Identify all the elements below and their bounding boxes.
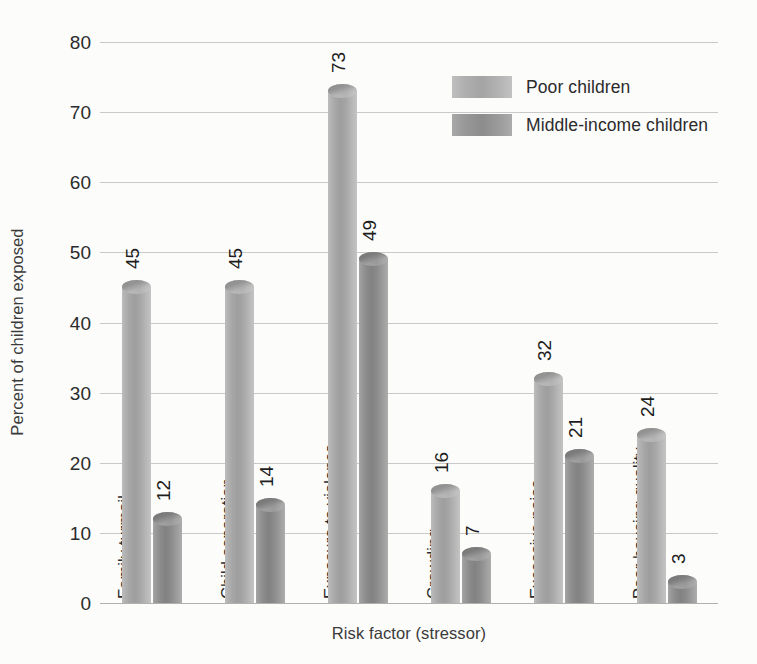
- bar-cap-shading: [668, 575, 697, 589]
- y-tick-label: 40: [30, 313, 100, 332]
- legend: Poor childrenMiddle-income children: [452, 72, 732, 148]
- legend-label: Middle-income children: [526, 115, 708, 136]
- bar: [462, 547, 491, 603]
- bar-value-label: 3: [669, 553, 688, 564]
- bar-body: [565, 456, 594, 603]
- bar: [534, 372, 563, 603]
- gridline: [100, 182, 718, 183]
- y-axis-tick-labels: 01020304050607080: [30, 0, 100, 664]
- bar-value-label: 73: [329, 52, 348, 73]
- y-tick-label: 30: [30, 383, 100, 402]
- axis-baseline: [100, 603, 718, 604]
- light-gray-swatch: [452, 76, 512, 98]
- y-tick-label: 20: [30, 453, 100, 472]
- dark-gray-swatch: [452, 114, 512, 136]
- bar: [153, 512, 182, 603]
- legend-item: Middle-income children: [452, 110, 732, 140]
- gridline: [100, 533, 718, 534]
- bar-value-label: 45: [123, 248, 142, 269]
- bar-body: [256, 505, 285, 603]
- bar: [637, 428, 666, 603]
- bar-body: [534, 379, 563, 603]
- bar: [668, 575, 697, 603]
- y-tick-label: 50: [30, 243, 100, 262]
- bar-cap-shading: [462, 547, 491, 561]
- bar-value-label: 7: [463, 525, 482, 536]
- bar-cap-shading: [431, 484, 460, 498]
- bar: [225, 280, 254, 603]
- bar-body: [122, 287, 151, 603]
- legend-label: Poor children: [526, 77, 630, 98]
- bar-body: [328, 91, 357, 603]
- bar-value-label: 12: [154, 480, 173, 501]
- bar-body: [431, 491, 460, 603]
- gridline: [100, 323, 718, 324]
- y-tick-label: 70: [30, 103, 100, 122]
- y-tick-label: 10: [30, 523, 100, 542]
- gridline: [100, 42, 718, 43]
- legend-item: Poor children: [452, 72, 732, 102]
- gridline: [100, 252, 718, 253]
- bar: [359, 252, 388, 603]
- y-tick-label: 60: [30, 173, 100, 192]
- bar: [256, 498, 285, 603]
- bar-value-label: 49: [360, 220, 379, 241]
- bar-value-label: 45: [226, 248, 245, 269]
- bar-cap-shading: [328, 84, 357, 98]
- y-tick-label: 0: [30, 594, 100, 613]
- bar-chart: Percent of children exposed 010203040506…: [0, 0, 757, 664]
- bar-body: [359, 259, 388, 603]
- bar-value-label: 32: [535, 339, 554, 360]
- bar-body: [462, 554, 491, 603]
- bar-value-label: 21: [566, 417, 585, 438]
- bar-cap-shading: [256, 498, 285, 512]
- bar-body: [225, 287, 254, 603]
- gridline: [100, 393, 718, 394]
- bar-value-label: 24: [638, 396, 657, 417]
- bar-cap-shading: [534, 372, 563, 386]
- x-axis-title: Risk factor (stressor): [100, 624, 718, 643]
- bar-value-label: 14: [257, 466, 276, 487]
- bar-cap-shading: [565, 449, 594, 463]
- bar-body: [153, 519, 182, 603]
- gridline: [100, 463, 718, 464]
- bar-body: [637, 435, 666, 603]
- bar: [328, 84, 357, 603]
- y-axis-title: Percent of children exposed: [0, 0, 34, 664]
- bar-cap-shading: [153, 512, 182, 526]
- bar: [122, 280, 151, 603]
- bar-cap-shading: [637, 428, 666, 442]
- bar: [565, 449, 594, 603]
- bar-value-label: 16: [432, 452, 451, 473]
- y-tick-label: 80: [30, 33, 100, 52]
- bar: [431, 484, 460, 603]
